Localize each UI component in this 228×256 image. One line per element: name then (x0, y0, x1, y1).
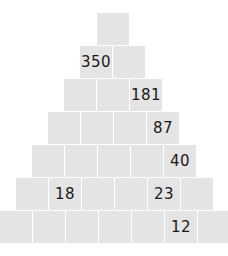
number-pyramid: 350 181 87 40 18 23 12 (0, 0, 228, 256)
pyramid-cell[interactable] (16, 178, 48, 210)
pyramid-cell[interactable] (66, 211, 98, 243)
pyramid-cell[interactable] (114, 112, 146, 144)
pyramid-cell[interactable] (198, 211, 228, 243)
pyramid-cell[interactable] (64, 79, 96, 111)
pyramid-cell[interactable] (32, 145, 64, 177)
pyramid-cell[interactable] (115, 178, 147, 210)
pyramid-cell[interactable]: 181 (130, 79, 162, 111)
pyramid-cell[interactable] (98, 145, 130, 177)
pyramid-cell[interactable] (65, 145, 97, 177)
pyramid-row-5: 40 (32, 145, 196, 177)
pyramid-row-4: 87 (48, 112, 179, 144)
pyramid-cell[interactable]: 12 (165, 211, 197, 243)
pyramid-cell[interactable] (99, 211, 131, 243)
pyramid-cell[interactable] (82, 178, 114, 210)
pyramid-row-7: 12 (0, 211, 228, 243)
pyramid-cell[interactable]: 350 (80, 46, 112, 78)
pyramid-row-6: 18 23 (16, 178, 213, 210)
pyramid-cell[interactable]: 18 (49, 178, 81, 210)
pyramid-cell[interactable] (113, 46, 145, 78)
pyramid-cell[interactable] (0, 211, 32, 243)
pyramid-cell[interactable] (81, 112, 113, 144)
pyramid-cell[interactable]: 23 (148, 178, 180, 210)
pyramid-cell[interactable]: 87 (147, 112, 179, 144)
pyramid-cell[interactable]: 40 (164, 145, 196, 177)
pyramid-cell[interactable] (33, 211, 65, 243)
pyramid-row-1 (97, 13, 129, 45)
pyramid-row-2: 350 (80, 46, 145, 78)
pyramid-cell[interactable] (97, 13, 129, 45)
pyramid-cell[interactable] (48, 112, 80, 144)
pyramid-cell[interactable] (132, 211, 164, 243)
pyramid-cell[interactable] (181, 178, 213, 210)
pyramid-row-3: 181 (64, 79, 162, 111)
pyramid-cell[interactable] (97, 79, 129, 111)
pyramid-cell[interactable] (131, 145, 163, 177)
